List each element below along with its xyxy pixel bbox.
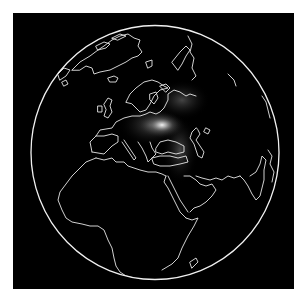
coastlines [58,34,274,278]
globe-surface [58,34,274,278]
globe-map[interactable] [0,0,303,298]
greenland-coast [72,34,142,74]
